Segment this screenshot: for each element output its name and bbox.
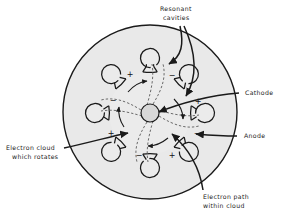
polarity-sign: − <box>169 71 176 80</box>
diagram-canvas: + − + − + − + − Resonant cavities Cathod… <box>0 0 294 219</box>
label-resonant-cavities-line2: cavities <box>163 14 190 21</box>
label-resonant-cavities-line1: Resonant <box>160 5 192 12</box>
cathode-core <box>141 104 159 122</box>
label-electron-path-line2: within cloud <box>203 202 245 209</box>
polarity-sign: + <box>195 97 202 106</box>
magnetron-diagram-figure: + − + − + − + − Resonant cavities Cathod… <box>0 0 294 219</box>
polarity-sign: + <box>127 70 134 79</box>
label-electron-path-line1: Electron path <box>203 193 249 201</box>
polarity-sign: + <box>169 151 176 160</box>
label-electron-cloud-line1: Electron cloud <box>6 144 55 151</box>
label-cathode: Cathode <box>245 89 273 96</box>
label-electron-cloud-line2: which rotates <box>12 153 58 160</box>
label-anode: Anode <box>244 132 265 139</box>
polarity-sign: − <box>136 151 143 160</box>
polarity-sign: − <box>194 129 201 138</box>
polarity-sign: − <box>110 96 117 105</box>
